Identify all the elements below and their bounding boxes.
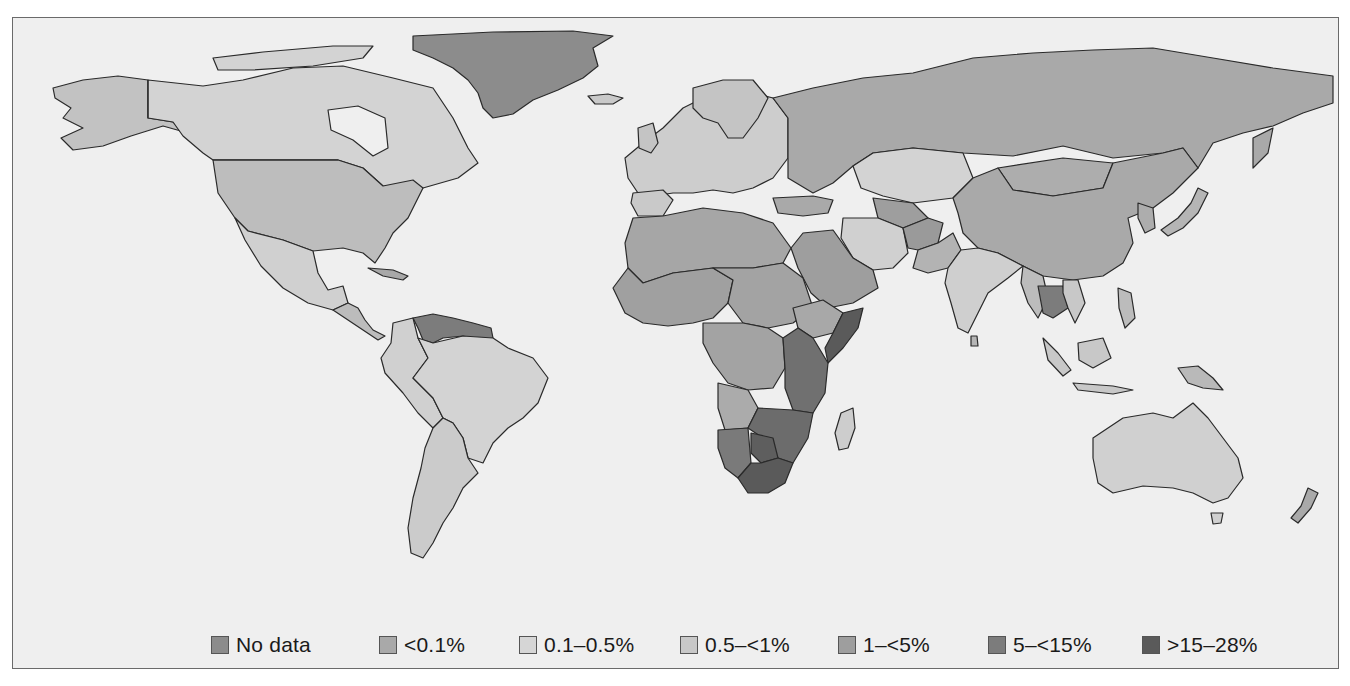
region-indonesia-java[interactable] <box>1073 383 1133 394</box>
legend-item-5-15: 5–<15% <box>988 630 1092 660</box>
region-east-africa[interactable] <box>783 328 828 413</box>
region-papua-new-guinea[interactable] <box>1178 366 1223 390</box>
legend-swatch <box>1142 636 1160 654</box>
region-vietnam-laos[interactable] <box>1063 280 1085 323</box>
region-kamchatka[interactable] <box>1253 128 1273 168</box>
legend-item-0-5-1: 0.5–<1% <box>680 630 790 660</box>
world-map <box>13 18 1340 670</box>
region-kazakhstan[interactable] <box>853 148 973 203</box>
legend-swatch <box>211 636 229 654</box>
map-frame: No data <0.1% 0.1–0.5% 0.5–<1% 1–<5% 5–<… <box>12 17 1339 669</box>
region-tasmania[interactable] <box>1211 513 1223 524</box>
legend-swatch <box>519 636 537 654</box>
region-sri-lanka[interactable] <box>971 336 978 346</box>
legend-swatch <box>379 636 397 654</box>
legend-swatch <box>680 636 698 654</box>
map-legend: No data <0.1% 0.1–0.5% 0.5–<1% 1–<5% 5–<… <box>13 630 1340 660</box>
region-central-africa[interactable] <box>703 323 785 390</box>
legend-label: 5–<15% <box>1013 633 1092 657</box>
region-korea[interactable] <box>1138 203 1155 233</box>
region-philippines[interactable] <box>1118 288 1135 328</box>
legend-label: <0.1% <box>404 633 465 657</box>
region-australia[interactable] <box>1093 403 1243 503</box>
legend-item-15-28: >15–28% <box>1142 630 1258 660</box>
legend-item-no-data: No data <box>211 630 311 660</box>
legend-item-1-5: 1–<5% <box>838 630 930 660</box>
region-west-africa[interactable] <box>613 268 733 326</box>
legend-item-0-1-0-5: 0.1–0.5% <box>519 630 634 660</box>
legend-swatch <box>838 636 856 654</box>
legend-label: No data <box>236 633 311 657</box>
legend-label: 0.1–0.5% <box>544 633 634 657</box>
region-iceland[interactable] <box>588 94 623 104</box>
region-india[interactable] <box>945 248 1023 333</box>
legend-item-lt-0-1: <0.1% <box>379 630 465 660</box>
region-madagascar[interactable] <box>835 408 855 450</box>
legend-label: 1–<5% <box>863 633 930 657</box>
region-central-america[interactable] <box>333 303 385 340</box>
region-turkey[interactable] <box>773 196 833 216</box>
region-indonesia-borneo[interactable] <box>1078 338 1111 368</box>
legend-label: >15–28% <box>1167 633 1258 657</box>
region-new-zealand[interactable] <box>1291 488 1318 523</box>
region-iberia[interactable] <box>631 190 673 216</box>
region-indonesia-sumatra[interactable] <box>1043 338 1071 376</box>
region-canada-arctic[interactable] <box>213 46 373 70</box>
legend-swatch <box>988 636 1006 654</box>
legend-label: 0.5–<1% <box>705 633 790 657</box>
region-cuba[interactable] <box>368 268 408 280</box>
